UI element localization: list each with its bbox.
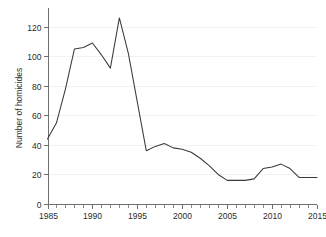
x-tick-label: 1985 [39, 211, 58, 221]
y-tick-label: 20 [32, 170, 42, 180]
y-tick-label: 60 [32, 111, 42, 121]
x-tick-label: 2000 [173, 211, 192, 221]
x-tick-label: 1990 [83, 211, 102, 221]
y-tick-label: 100 [27, 52, 41, 62]
homicides-line-chart: 020406080100120 198519901995200020052010… [0, 0, 326, 237]
y-tick-label: 40 [32, 141, 42, 151]
chart-container: 020406080100120 198519901995200020052010… [0, 0, 326, 237]
x-tick-label: 2005 [218, 211, 237, 221]
chart-background [0, 0, 326, 237]
y-tick-label: 120 [27, 23, 41, 33]
y-axis-title: Number of homicides [14, 68, 24, 148]
x-tick-label: 2015 [308, 211, 326, 221]
x-tick-label: 2010 [263, 211, 282, 221]
x-tick-label: 1995 [128, 211, 147, 221]
y-tick-label: 0 [37, 200, 42, 210]
y-tick-label: 80 [32, 82, 42, 92]
